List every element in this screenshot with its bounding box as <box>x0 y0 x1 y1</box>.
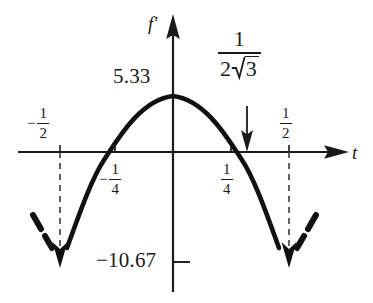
fraction-bar <box>280 123 292 125</box>
dash-right-outer-1 <box>308 215 316 229</box>
dashed-guide-lines <box>60 152 289 258</box>
fraction-denominator: 2 3 <box>218 56 261 80</box>
radical-sign <box>232 56 246 78</box>
plot-canvas <box>0 0 373 303</box>
minus-sign: − <box>27 116 35 131</box>
x-axis <box>18 145 349 159</box>
fraction-numerator: 1 <box>221 162 233 177</box>
fraction-bar <box>218 52 261 54</box>
x-tick-label-pos-quarter: 1 4 <box>221 162 233 197</box>
y-axis-label: f′ <box>148 14 157 33</box>
x-tick-label-neg-quarter: − 1 4 <box>99 162 121 197</box>
minus-sign: − <box>99 172 107 187</box>
x-tick-label-pos-half: 1 2 <box>280 106 292 141</box>
square-root-icon: 3 <box>232 56 259 80</box>
annotation-arrow <box>241 106 253 152</box>
fraction-numerator: 1 <box>109 162 121 177</box>
dash-left-outer-1 <box>33 215 41 229</box>
peak-value-label: 5.33 <box>113 66 151 87</box>
axis-ticks <box>60 143 289 262</box>
fraction-bar <box>221 179 233 181</box>
dash-left-outer-2 <box>45 236 52 248</box>
fraction-denominator: 2 <box>37 126 49 141</box>
math-graph-figure: f′ t 5.33 −10.67 − 1 2 1 2 − 1 <box>0 0 373 303</box>
fraction-numerator: 1 <box>37 106 49 121</box>
fraction-denominator: 4 <box>221 182 233 197</box>
fraction-denominator: 2 <box>280 126 292 141</box>
curve-minimum-arrowheads <box>53 242 297 268</box>
annotation-label-one-over-two-root-three: 1 2 3 <box>218 28 261 80</box>
radicand: 3 <box>245 56 259 80</box>
minimum-value-label: −10.67 <box>96 250 156 271</box>
fraction-bar <box>109 179 121 181</box>
fraction-bar <box>37 123 49 125</box>
fraction-numerator: 1 <box>280 106 292 121</box>
dash-right-outer-2 <box>297 236 304 248</box>
x-tick-label-neg-half: − 1 2 <box>27 106 49 141</box>
fraction-denominator: 4 <box>109 182 121 197</box>
denominator-coefficient: 2 <box>220 58 231 80</box>
x-axis-label: t <box>352 143 357 162</box>
fraction-numerator: 1 <box>232 28 247 50</box>
